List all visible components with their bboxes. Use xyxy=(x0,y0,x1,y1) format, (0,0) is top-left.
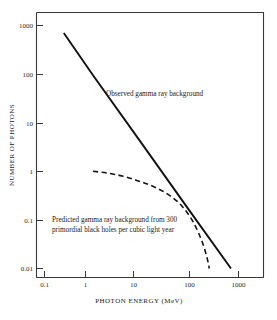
x-axis-title: PHOTON ENERGY (MeV) xyxy=(95,297,183,305)
x-tick-label-10: 10 xyxy=(130,281,138,289)
y-tick-label-100: 100 xyxy=(23,71,34,79)
y-tick-label-0.1: 0.1 xyxy=(24,217,33,225)
x-tick-label-1: 1 xyxy=(84,281,88,289)
y-tick-label-1000: 1000 xyxy=(19,22,34,30)
annotation-predicted-line-1: Predicted gamma ray background from 300 xyxy=(52,216,178,224)
x-axis-tick-labels: 0.1 1 10 100 1000 xyxy=(40,281,246,289)
chart-plot-area: 1000 100 10 1 0.1 0.01 0.1 1 10 100 1000… xyxy=(0,0,277,320)
chart-figure: 1000 100 10 1 0.1 0.01 0.1 1 10 100 1000… xyxy=(0,0,277,320)
y-axis-tick-labels: 1000 100 10 1 0.1 0.01 xyxy=(19,22,34,273)
y-tick-label-0.01: 0.01 xyxy=(21,265,34,273)
x-tick-label-1000: 1000 xyxy=(232,281,247,289)
x-tick-label-0.1: 0.1 xyxy=(40,281,49,289)
annotation-predicted-label: Predicted gamma ray background from 300 … xyxy=(52,216,178,234)
annotation-predicted-line-2: primordial black holes per cubic light y… xyxy=(52,226,175,234)
y-tick-label-1: 1 xyxy=(30,168,34,176)
x-tick-label-100: 100 xyxy=(184,281,195,289)
annotation-observed-label: Observed gamma ray background xyxy=(106,90,204,98)
x-axis-ticks xyxy=(45,271,239,278)
y-axis-ticks xyxy=(37,26,44,269)
y-axis-title: NUMBER OF PHOTONS xyxy=(8,104,16,186)
y-tick-label-10: 10 xyxy=(26,120,34,128)
